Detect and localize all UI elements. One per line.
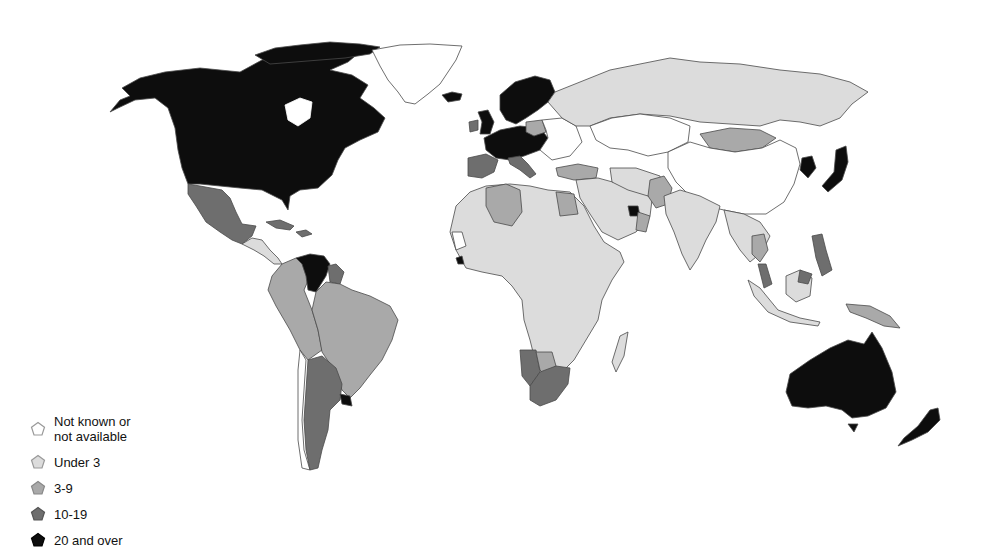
region-argentina	[304, 356, 342, 470]
region-iceland	[442, 92, 462, 102]
region-madagascar	[612, 332, 628, 372]
region-philippines	[812, 234, 832, 276]
legend-label: 3-9	[54, 481, 73, 496]
region-tasmania	[848, 424, 858, 432]
region-north-america	[110, 46, 385, 210]
region-turkey	[556, 164, 598, 180]
pentagon-icon	[30, 506, 46, 522]
region-italy-balkans	[508, 156, 536, 178]
legend-item-under-3: Under 3	[30, 454, 100, 470]
legend-item-20-and-over: 20 and over	[30, 532, 123, 548]
region-scandinavia	[500, 76, 555, 124]
region-malaysia-peninsula	[758, 264, 772, 288]
region-mexico	[188, 184, 256, 244]
region-guyana-suriname	[328, 264, 344, 284]
region-ireland	[469, 120, 478, 132]
region-russia	[548, 58, 868, 126]
region-uruguay	[340, 394, 352, 406]
region-new-zealand	[898, 408, 940, 446]
region-new-guinea	[846, 304, 900, 328]
region-uk	[478, 110, 494, 134]
region-caribbean	[266, 220, 294, 230]
region-oman	[636, 212, 650, 232]
region-japan	[822, 146, 848, 192]
pentagon-icon	[30, 454, 46, 470]
region-caribbean-2	[296, 230, 312, 237]
legend-label: Not known or not available	[54, 414, 131, 444]
pentagon-icon	[30, 532, 46, 548]
legend-label: 10-19	[54, 507, 87, 522]
region-india	[664, 190, 720, 270]
region-australia	[786, 332, 896, 418]
legend-label: Under 3	[54, 455, 100, 470]
legend-item-not-available: Not known or not available	[30, 414, 131, 444]
region-korea	[800, 156, 816, 178]
region-central-america	[242, 238, 282, 264]
region-spain	[468, 154, 498, 178]
region-egypt	[556, 192, 578, 216]
pentagon-icon	[30, 480, 46, 496]
legend-label: 20 and over	[54, 533, 123, 548]
legend-item-10-19: 10-19	[30, 506, 87, 522]
pentagon-icon	[30, 421, 46, 437]
legend-item-3-9: 3-9	[30, 480, 73, 496]
